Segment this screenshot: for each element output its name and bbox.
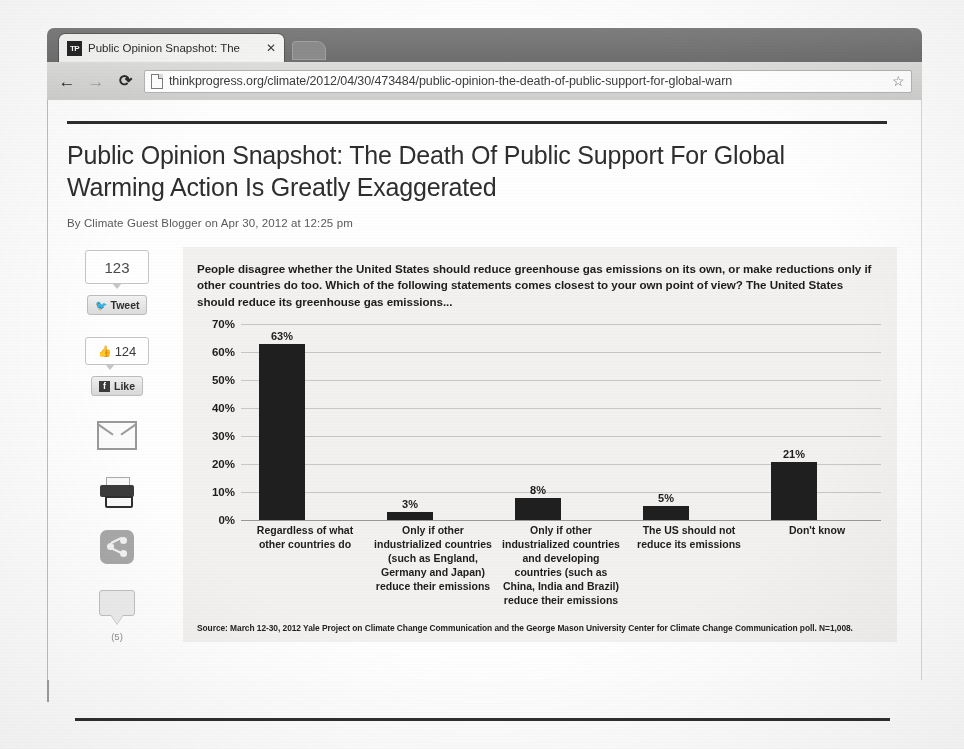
bottom-divider bbox=[75, 718, 890, 721]
x-axis-category-label: Only if other industrialized countries (… bbox=[369, 524, 497, 607]
reload-icon[interactable]: ⟳ bbox=[115, 71, 135, 91]
bar-value-label: 21% bbox=[771, 448, 817, 460]
thumbs-up-icon: 👍 bbox=[98, 345, 112, 358]
y-tick-label: 0% bbox=[218, 514, 235, 526]
article-body: 123 🐦 Tweet 👍 124 f Like bbox=[67, 247, 897, 642]
comments-button[interactable] bbox=[96, 586, 138, 620]
forward-icon[interactable]: → bbox=[86, 71, 106, 91]
x-axis-category-label: The US should not reduce its emissions bbox=[625, 524, 753, 607]
chart-figure: People disagree whether the United State… bbox=[183, 247, 897, 642]
window-left-edge bbox=[47, 680, 49, 702]
tab-strip: TP Public Opinion Snapshot: The ✕ bbox=[47, 32, 922, 62]
bird-icon: 🐦 bbox=[95, 300, 107, 311]
facebook-like-button[interactable]: f Like bbox=[91, 376, 143, 396]
comment-bubble-icon bbox=[99, 590, 135, 616]
browser-chrome: TP Public Opinion Snapshot: The ✕ ← → ⟳ … bbox=[47, 28, 922, 100]
chart-question-title: People disagree whether the United State… bbox=[197, 261, 881, 310]
chart-bar bbox=[515, 498, 561, 520]
page-title: Public Opinion Snapshot: The Death Of Pu… bbox=[67, 140, 862, 203]
chart-bar bbox=[771, 462, 817, 521]
printer-icon bbox=[100, 477, 134, 505]
bar-value-label: 8% bbox=[515, 484, 561, 496]
page-document-icon bbox=[151, 74, 163, 89]
y-axis: 70%60%50%40%30%20%10%0% bbox=[199, 324, 239, 520]
share-button[interactable] bbox=[96, 530, 138, 564]
gridline bbox=[241, 520, 881, 521]
y-tick-label: 30% bbox=[212, 430, 235, 442]
bar-value-label: 3% bbox=[387, 498, 433, 510]
top-divider bbox=[67, 121, 887, 124]
browser-tab[interactable]: TP Public Opinion Snapshot: The ✕ bbox=[59, 34, 284, 62]
article-byline: By Climate Guest Blogger on Apr 30, 2012… bbox=[67, 217, 897, 229]
address-bar[interactable]: thinkprogress.org/climate/2012/04/30/473… bbox=[144, 70, 912, 93]
x-axis-category-label: Don't know bbox=[753, 524, 881, 607]
new-tab-button[interactable] bbox=[292, 41, 326, 60]
y-tick-label: 20% bbox=[212, 458, 235, 470]
bar-slot: 8% bbox=[497, 324, 625, 520]
tweet-button-label: Tweet bbox=[111, 299, 140, 311]
facebook-count-value: 124 bbox=[115, 344, 137, 359]
bar-slot: 21% bbox=[753, 324, 881, 520]
email-share-button[interactable] bbox=[96, 418, 138, 452]
chart-bar bbox=[259, 344, 305, 520]
bookmark-star-icon[interactable]: ☆ bbox=[892, 74, 905, 88]
comment-count-label: (5) bbox=[111, 631, 123, 642]
envelope-icon bbox=[97, 421, 137, 450]
favicon-icon: TP bbox=[67, 41, 82, 56]
browser-window: TP Public Opinion Snapshot: The ✕ ← → ⟳ … bbox=[47, 28, 922, 680]
bar-value-label: 5% bbox=[643, 492, 689, 504]
print-button[interactable] bbox=[96, 474, 138, 508]
chart-bar bbox=[643, 506, 689, 520]
bar-slot: 3% bbox=[369, 324, 497, 520]
x-axis-category-label: Only if other industrialized countries a… bbox=[497, 524, 625, 607]
facebook-f-icon: f bbox=[99, 381, 110, 392]
bar-slot: 5% bbox=[625, 324, 753, 520]
bar-slot: 63% bbox=[241, 324, 369, 520]
y-tick-label: 50% bbox=[212, 374, 235, 386]
y-tick-label: 10% bbox=[212, 486, 235, 498]
browser-toolbar: ← → ⟳ thinkprogress.org/climate/2012/04/… bbox=[47, 62, 922, 100]
bar-value-label: 63% bbox=[259, 330, 305, 342]
chart-source-note: Source: March 12-30, 2012 Yale Project o… bbox=[197, 622, 883, 634]
tab-title: Public Opinion Snapshot: The bbox=[88, 42, 260, 54]
tweet-button[interactable]: 🐦 Tweet bbox=[87, 295, 148, 315]
facebook-like-count-bubble: 👍 124 bbox=[85, 337, 149, 365]
tweet-count-bubble: 123 bbox=[85, 250, 149, 284]
back-icon[interactable]: ← bbox=[57, 71, 77, 91]
article-content: Public Opinion Snapshot: The Death Of Pu… bbox=[67, 140, 897, 642]
chart-plot-area: 70%60%50%40%30%20%10%0% 63%3%8%5%21% Reg… bbox=[199, 324, 881, 520]
y-tick-label: 70% bbox=[212, 318, 235, 330]
x-axis-labels: Regardless of what other countries doOnl… bbox=[241, 524, 881, 607]
chart-bar bbox=[387, 512, 433, 520]
x-axis-category-label: Regardless of what other countries do bbox=[241, 524, 369, 607]
y-tick-label: 60% bbox=[212, 346, 235, 358]
facebook-button-label: Like bbox=[114, 380, 135, 392]
share-nodes-icon bbox=[100, 530, 134, 564]
close-icon[interactable]: ✕ bbox=[266, 42, 276, 54]
chart-bars: 63%3%8%5%21% bbox=[241, 324, 881, 520]
share-sidebar: 123 🐦 Tweet 👍 124 f Like bbox=[67, 247, 167, 642]
y-tick-label: 40% bbox=[212, 402, 235, 414]
page-viewport: Public Opinion Snapshot: The Death Of Pu… bbox=[47, 100, 922, 680]
url-text: thinkprogress.org/climate/2012/04/30/473… bbox=[169, 74, 886, 88]
